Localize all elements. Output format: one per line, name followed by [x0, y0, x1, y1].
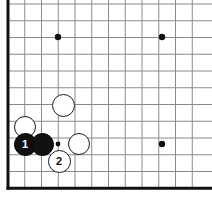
- star-point-upper-right: [159, 34, 165, 40]
- star-point-lower-left: [56, 142, 61, 147]
- white-stone-move-2[interactable]: 2: [48, 150, 71, 173]
- black-stone-move-1-label: 1: [22, 139, 28, 150]
- go-board-diagram: 12: [0, 0, 212, 204]
- white-stone-upper[interactable]: [52, 94, 75, 117]
- black-stone-plain[interactable]: [31, 133, 54, 156]
- board-grid: [0, 0, 212, 204]
- star-point-upper-left: [55, 34, 61, 40]
- star-point-lower-right: [159, 141, 165, 147]
- white-stone-right[interactable]: [68, 133, 90, 155]
- white-stone-move-2-label: 2: [56, 156, 62, 167]
